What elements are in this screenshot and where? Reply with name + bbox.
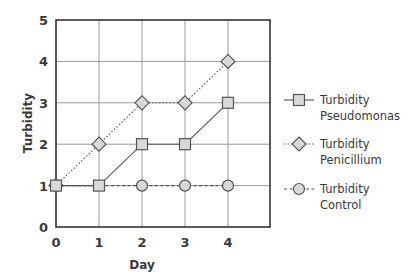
y-tick-label: 0 xyxy=(39,220,48,235)
circle-marker xyxy=(223,180,234,191)
y-tick-label: 2 xyxy=(39,137,48,152)
y-tick-label: 3 xyxy=(39,96,48,111)
x-tick-label: 2 xyxy=(137,235,146,250)
y-axis-ticks: 012345 xyxy=(39,13,48,235)
square-marker xyxy=(223,97,234,108)
x-axis-ticks: 01234 xyxy=(51,235,232,250)
y-tick-label: 5 xyxy=(39,13,48,28)
x-tick-label: 1 xyxy=(94,235,103,250)
legend-circle-icon xyxy=(294,184,305,195)
legend-diamond-icon xyxy=(292,137,306,151)
gridlines xyxy=(56,20,270,227)
circle-marker xyxy=(180,180,191,191)
y-tick-label: 1 xyxy=(39,179,48,194)
legend-label: Turbidity xyxy=(319,182,370,196)
legend-label: Control xyxy=(320,198,362,212)
x-axis-label: Day xyxy=(129,258,155,272)
x-tick-label: 0 xyxy=(51,235,60,250)
x-tick-label: 3 xyxy=(180,235,189,250)
y-tick-label: 4 xyxy=(39,54,48,69)
legend-square-icon xyxy=(294,95,305,106)
legend-item: TurbidityPenicillium xyxy=(284,137,382,167)
plot-frame xyxy=(56,20,270,227)
legend: TurbidityPseudomonasTurbidityPenicillium… xyxy=(284,93,400,212)
legend-label: Turbidity xyxy=(319,137,370,151)
legend-label: Penicillium xyxy=(320,153,382,167)
square-marker xyxy=(137,139,148,150)
square-marker xyxy=(51,180,62,191)
legend-item: TurbidityPseudomonas xyxy=(284,93,400,123)
legend-label: Turbidity xyxy=(319,93,370,107)
line-chart: 012345 01234 Turbidity Day TurbidityPseu… xyxy=(0,0,410,280)
diamond-marker xyxy=(221,54,235,68)
x-tick-label: 4 xyxy=(223,235,232,250)
y-axis-label: Turbidity xyxy=(21,93,35,153)
square-marker xyxy=(94,180,105,191)
circle-marker xyxy=(137,180,148,191)
legend-item: TurbidityControl xyxy=(284,182,370,212)
square-marker xyxy=(180,139,191,150)
legend-label: Pseudomonas xyxy=(320,109,400,123)
